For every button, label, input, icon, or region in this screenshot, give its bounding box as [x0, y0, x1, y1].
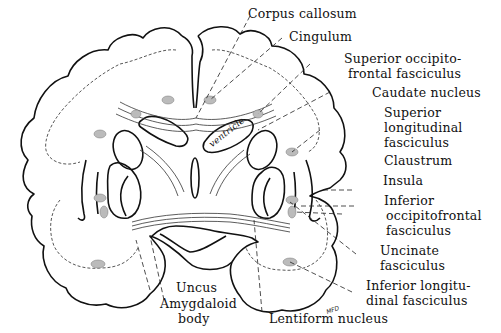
- label-claustrum: Claustrum: [384, 154, 452, 167]
- label-inferior-occipitofrontal-line3: fasciculus: [386, 224, 451, 237]
- label-superior-longitudinal-line2: longitudinal: [384, 121, 463, 134]
- label-caudate-nucleus: Caudate nucleus: [372, 86, 481, 99]
- label-amygdaloid-body-line1: Amygdaloid: [160, 297, 237, 310]
- label-corpus-callosum: Corpus callosum: [248, 7, 357, 20]
- label-insula: Insula: [383, 174, 423, 187]
- brain-coronal-section-diagram: ventricle MFD Corpus callosum Cingulum S…: [0, 0, 501, 333]
- right-lentiform: [252, 167, 284, 218]
- label-superior-longitudinal-line1: Superior: [384, 106, 441, 119]
- right-hemisphere-outline: [198, 27, 346, 312]
- label-inferior-longitudinal-line1: Inferior longitu-: [366, 279, 471, 292]
- label-amygdaloid-body-line2: body: [178, 312, 209, 325]
- label-uncinate-line2: fasciculus: [380, 259, 445, 272]
- label-uncus: Uncus: [176, 281, 217, 294]
- label-inferior-occipitofrontal-line2: occipitofrontal: [386, 209, 482, 222]
- label-cingulum: Cingulum: [289, 30, 352, 43]
- label-superior-longitudinal-line3: fasciculus: [384, 136, 449, 149]
- label-superior-occipitofrontal-line1: Superior occipito-: [344, 52, 461, 65]
- label-uncinate-line1: Uncinate: [380, 244, 439, 257]
- label-inferior-occipitofrontal-line1: Inferior: [384, 194, 434, 207]
- label-superior-occipitofrontal-line2: frontal fasciculus: [348, 67, 461, 80]
- left-hemisphere-outline: [21, 28, 258, 308]
- label-lentiform-nucleus: Lentiform nucleus: [269, 312, 388, 325]
- label-inferior-longitudinal-line2: dinal fasciculus: [366, 294, 468, 307]
